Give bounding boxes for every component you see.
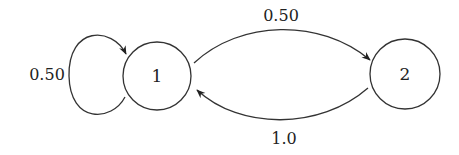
node-2: 2 [370,39,440,109]
edge-2-to-1-label: 1.0 [271,129,296,148]
edge-1-to-1-label: 0.50 [29,65,65,84]
edge-2-to-1 [197,88,368,120]
node-2-label: 2 [400,64,411,84]
edge-1-to-2-label: 0.50 [263,6,299,25]
edge-1-to-1 [69,35,126,114]
edge-1-to-2 [194,30,370,63]
node-1: 1 [123,42,191,110]
markov-chain-diagram: 0.50 0.50 1.0 1 2 [0,0,459,155]
node-1-label: 1 [152,66,163,86]
